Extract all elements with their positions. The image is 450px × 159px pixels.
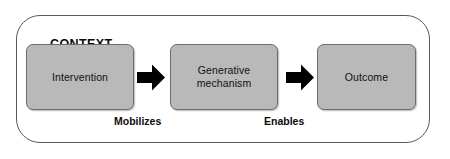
node-generative-mechanism-label: Generative mechanism [197,64,252,90]
diagram-canvas: CONTEXT Intervention Generative mechanis… [0,0,450,159]
node-generative-mechanism-label-line1: Generative [198,64,250,76]
node-generative-mechanism: Generative mechanism [170,44,278,110]
node-generative-mechanism-label-line2: mechanism [197,77,252,89]
right-block-arrow-icon [286,63,314,92]
node-outcome: Outcome [317,44,416,110]
edge-label-enables: Enables [264,116,304,127]
node-outcome-label: Outcome [345,71,388,84]
node-intervention-label: Intervention [52,71,108,84]
node-intervention: Intervention [26,44,134,110]
right-block-arrow-icon [137,63,165,92]
edge-label-mobilizes: Mobilizes [114,116,161,127]
